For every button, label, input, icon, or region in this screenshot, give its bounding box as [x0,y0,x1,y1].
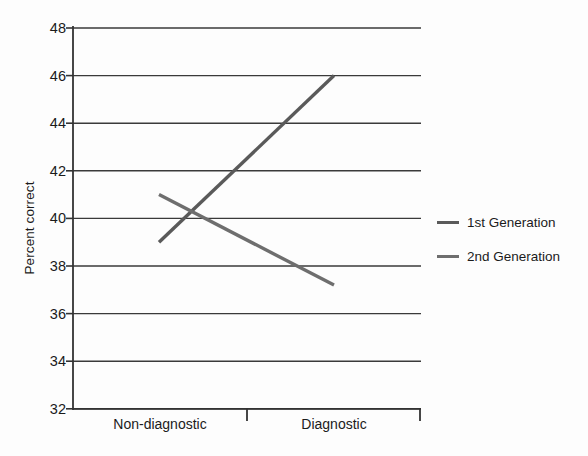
legend-line-swatch-icon [437,221,459,224]
y-tick-label: 40 [32,211,66,226]
legend-label: 2nd Generation [467,249,560,264]
y-tick-label: 46 [32,68,66,83]
gridlines [73,28,421,409]
legend-label: 1st Generation [467,215,556,230]
legend-line-swatch-icon [437,255,459,258]
chart-figure: Percent correct 48 46 44 42 40 38 36 34 … [0,0,588,456]
y-tick-label: 34 [32,354,66,369]
y-axis-ticks [66,28,73,409]
y-tick-label: 48 [32,21,66,36]
y-tick-label: 36 [32,306,66,321]
legend-item-2nd-generation: 2nd Generation [437,239,587,273]
legend-item-1st-generation: 1st Generation [437,205,587,239]
y-tick-label: 38 [32,259,66,274]
y-tick-label: 44 [32,116,66,131]
y-tick-label: 32 [32,402,66,417]
y-tick-label: 42 [32,164,66,179]
series-line-2nd-generation [159,195,334,285]
x-tick-label-diagnostic: Diagnostic [301,417,366,431]
x-tick-label-non-diagnostic: Non-diagnostic [113,417,206,431]
legend: 1st Generation 2nd Generation [437,205,587,273]
series-line-1st-generation [159,76,334,243]
y-axis-tick-labels: 48 46 44 42 40 38 36 34 32 [28,0,66,456]
